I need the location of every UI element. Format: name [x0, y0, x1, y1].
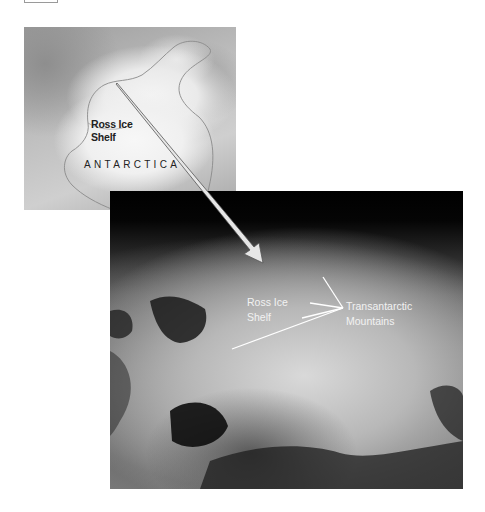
leader-lines	[232, 277, 343, 349]
pointer-arrow	[116, 83, 263, 263]
annotation-overlay	[0, 0, 485, 512]
